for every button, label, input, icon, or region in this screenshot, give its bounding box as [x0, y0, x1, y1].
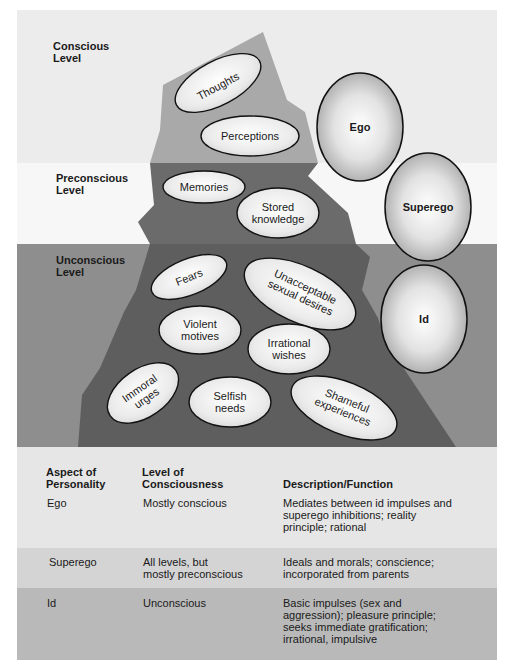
cell-description: Ideals and morals; conscience; incorpora…	[283, 556, 434, 580]
preconscious-level-label: Preconscious Level	[56, 172, 128, 196]
label-ego: Ego	[330, 121, 390, 133]
header-level: Level of Consciousness	[142, 466, 223, 490]
label-violent-motives: Violent motives	[172, 318, 228, 342]
header-aspect: Aspect of Personality	[46, 466, 105, 490]
label-selfish-needs: Selfish needs	[205, 390, 255, 414]
cell-level: Mostly conscious	[143, 497, 227, 509]
label-stored-knowledge: Stored knowledge	[242, 201, 314, 225]
unconscious-level-label: Unconscious Level	[56, 254, 125, 278]
conscious-level-label: Conscious Level	[53, 40, 109, 64]
header-description: Description/Function	[283, 478, 393, 490]
cell-description: Basic impulses (sex and aggression); ple…	[283, 597, 436, 645]
label-id: Id	[394, 313, 454, 325]
cell-level: All levels, but mostly preconscious	[143, 556, 243, 580]
label-irrational-wishes: Irrational wishes	[258, 337, 320, 361]
label-perceptions: Perceptions	[202, 130, 298, 142]
cell-level: Unconscious	[143, 597, 206, 609]
cell-aspect: Ego	[47, 497, 67, 509]
cell-description: Mediates between id impulses and supereg…	[283, 497, 452, 533]
label-superego: Superego	[393, 201, 463, 213]
cell-aspect: Id	[47, 597, 56, 609]
label-memories: Memories	[164, 181, 244, 193]
cell-aspect: Superego	[49, 556, 97, 568]
